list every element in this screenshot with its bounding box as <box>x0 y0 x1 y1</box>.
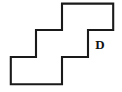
label-d: D <box>92 36 108 54</box>
polyomino-net-figure: D <box>0 0 122 92</box>
